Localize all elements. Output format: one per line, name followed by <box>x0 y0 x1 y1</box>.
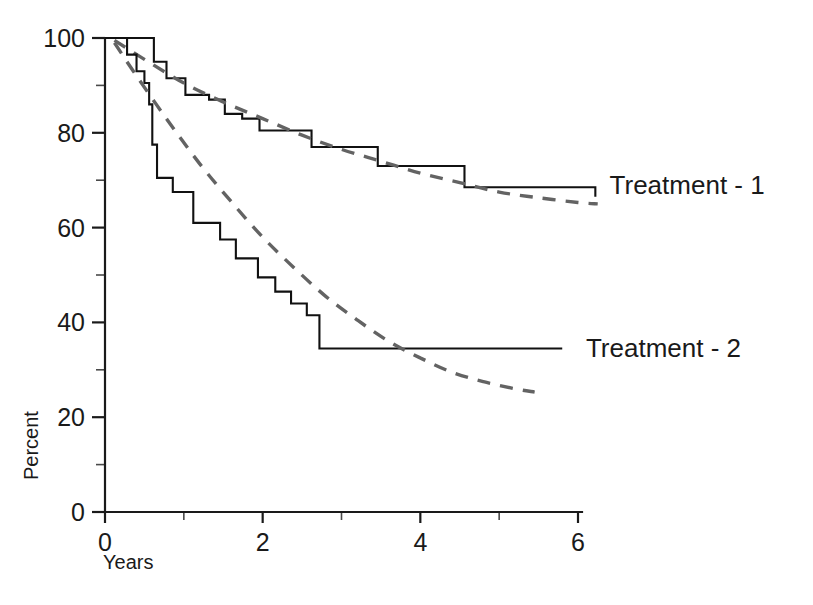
x-axis-title: Years <box>103 551 153 573</box>
x-axis-minor-ticks <box>184 512 499 520</box>
y-tick-label: 60 <box>57 214 85 242</box>
km-step-curve <box>105 38 595 197</box>
x-tick-label: 2 <box>256 528 270 556</box>
x-tick-label: 6 <box>571 528 585 556</box>
y-tick-label: 0 <box>71 498 85 526</box>
y-tick-label: 40 <box>57 308 85 336</box>
km-step-curve <box>105 38 562 348</box>
y-tick-label: 100 <box>43 24 85 52</box>
x-tick-label: 4 <box>413 528 427 556</box>
y-axis-tick-labels: 020406080100 <box>43 24 85 526</box>
series-label-treatment-1: Treatment - 1 <box>610 170 765 200</box>
fitted-curve <box>114 40 597 204</box>
series-label-treatment-2: Treatment - 2 <box>586 333 741 363</box>
survival-chart-figure: 020406080100 0246 Years Percent Treatmen… <box>0 0 813 605</box>
y-axis-title: Percent <box>20 411 42 480</box>
chart-canvas: 020406080100 0246 Years Percent Treatmen… <box>0 0 813 605</box>
y-axis-minor-ticks <box>96 85 105 464</box>
fitted-curve <box>114 43 534 392</box>
y-tick-label: 80 <box>57 119 85 147</box>
x-axis-tick-labels: 0246 <box>98 528 585 556</box>
y-tick-label: 20 <box>57 403 85 431</box>
data-series-layer <box>105 38 598 392</box>
